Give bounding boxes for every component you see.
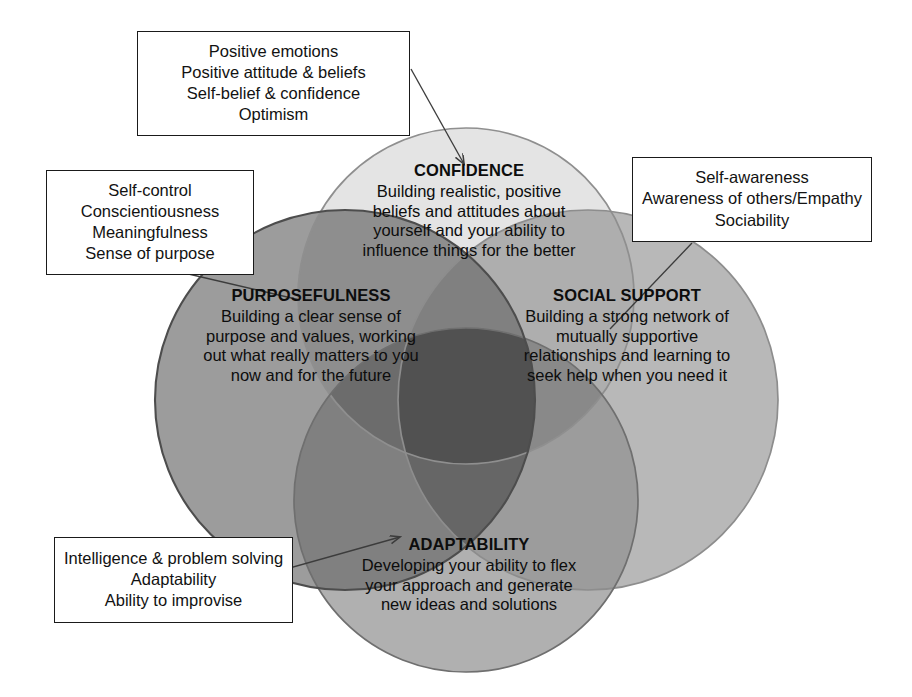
circle-desc-line: relationships and learning to: [497, 346, 757, 366]
callout-box-confidence[interactable]: Positive emotions Positive attitude & be…: [137, 31, 410, 136]
circle-desc-line: your approach and generate: [336, 576, 602, 596]
callout-box-purposefulness[interactable]: Self-control Conscientiousness Meaningfu…: [46, 170, 254, 275]
circle-desc-line: Building a strong network of: [497, 307, 757, 327]
circle-desc-line: new ideas and solutions: [336, 595, 602, 615]
callout-line: Ability to improvise: [105, 590, 243, 611]
circle-desc-line: yourself and your ability to: [338, 221, 600, 241]
circle-desc-line: out what really matters to you: [186, 346, 436, 366]
callout-line: Self-belief & confidence: [187, 83, 360, 104]
circle-label-purposefulness: PURPOSEFULNESS Building a clear sense of…: [186, 286, 436, 386]
callout-line: Intelligence & problem solving: [64, 548, 283, 569]
circle-label-confidence: CONFIDENCE Building realistic, positive …: [338, 161, 600, 261]
circle-desc-line: Building a clear sense of: [186, 307, 436, 327]
callout-line: Adaptability: [131, 569, 216, 590]
callout-line: Positive attitude & beliefs: [181, 62, 365, 83]
circle-title-confidence: CONFIDENCE: [338, 161, 600, 181]
callout-line: Awareness of others/Empathy: [642, 188, 862, 209]
callout-box-social-support[interactable]: Self-awareness Awareness of others/Empat…: [632, 157, 872, 242]
circle-desc-line: influence things for the better: [338, 241, 600, 261]
circle-desc-line: beliefs and attitudes about: [338, 202, 600, 222]
callout-box-adaptability[interactable]: Intelligence & problem solving Adaptabil…: [54, 537, 293, 623]
callout-line: Positive emotions: [209, 41, 338, 62]
callout-line: Sense of purpose: [85, 243, 214, 264]
circle-label-adaptability: ADAPTABILITY Developing your ability to …: [336, 535, 602, 615]
callout-line: Conscientiousness: [81, 201, 220, 222]
circle-desc-line: mutually supportive: [497, 327, 757, 347]
circle-desc-line: purpose and values, working: [186, 327, 436, 347]
callout-line: Self-awareness: [695, 167, 809, 188]
circle-desc-line: seek help when you need it: [497, 366, 757, 386]
callout-line: Self-control: [108, 180, 191, 201]
callout-line: Meaningfulness: [92, 222, 208, 243]
circle-label-social-support: SOCIAL SUPPORT Building a strong network…: [497, 286, 757, 386]
callout-line: Optimism: [239, 104, 309, 125]
circle-title-purposefulness: PURPOSEFULNESS: [186, 286, 436, 306]
circle-title-social-support: SOCIAL SUPPORT: [497, 286, 757, 306]
callout-line: Sociability: [715, 210, 789, 231]
circle-title-adaptability: ADAPTABILITY: [336, 535, 602, 555]
circle-desc-line: Building realistic, positive: [338, 182, 600, 202]
circle-desc-line: Developing your ability to flex: [336, 556, 602, 576]
circle-desc-line: now and for the future: [186, 366, 436, 386]
diagram-canvas: CONFIDENCE Building realistic, positive …: [0, 0, 912, 697]
